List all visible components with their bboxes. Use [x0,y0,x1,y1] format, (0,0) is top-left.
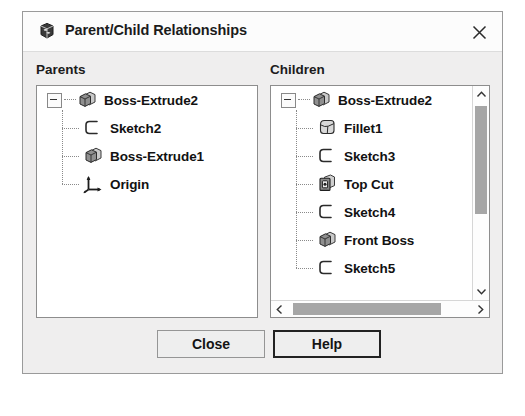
tree-root-item[interactable]: Boss-Extrude2 [37,86,257,114]
tree-item-label: Sketch2 [110,121,161,136]
tree-item[interactable]: Sketch3 [271,142,472,170]
tree-item[interactable]: Front Boss [271,226,472,254]
tree-item-label: Sketch5 [344,261,395,276]
parents-tree-viewport: Boss-Extrude2Sketch2Boss-Extrude1Origin [37,86,257,317]
sketch-icon [316,201,338,223]
tree-item-label: Sketch4 [344,205,395,220]
parents-tree-panel: Boss-Extrude2Sketch2Boss-Extrude1Origin [36,85,258,318]
children-panel-label: Children [270,62,325,77]
extrude-feature-icon [316,229,338,251]
tree-item[interactable]: Top Cut [271,170,472,198]
help-button[interactable]: Help [273,330,381,358]
chevron-right-icon[interactable] [472,301,489,317]
children-horizontal-scrollbar[interactable] [271,300,489,317]
tree-item[interactable]: Sketch5 [271,254,472,282]
children-tree-viewport: Boss-Extrude2Fillet1Sketch3Top CutSketch… [271,86,472,300]
tree-item[interactable]: Boss-Extrude1 [37,142,257,170]
tree-connector-line [64,99,76,101]
origin-axes-icon [82,173,104,195]
sketch-icon [316,257,338,279]
sketch-icon [316,145,338,167]
tree-item-label: Fillet1 [344,121,382,136]
extrude-feature-icon [82,145,104,167]
tree-item-label: Boss-Extrude2 [338,93,432,108]
parent-child-relationships-dialog: Parent/Child Relationships Parents Child… [22,11,503,374]
tree-connector-line [298,99,310,101]
tree-item-label: Sketch3 [344,149,395,164]
expander-minus-icon[interactable] [47,93,62,108]
chevron-left-icon[interactable] [271,301,288,317]
chevron-down-icon[interactable] [473,283,489,300]
tree-root-item[interactable]: Boss-Extrude2 [271,86,472,114]
children-vertical-scroll-thumb[interactable] [475,106,487,214]
dialog-title: Parent/Child Relationships [65,22,247,38]
tree-item-label: Boss-Extrude1 [110,149,204,164]
children-tree[interactable]: Boss-Extrude2Fillet1Sketch3Top CutSketch… [271,86,472,282]
parents-tree[interactable]: Boss-Extrude2Sketch2Boss-Extrude1Origin [37,86,257,198]
chevron-up-icon[interactable] [473,86,489,103]
expander-minus-icon[interactable] [281,93,296,108]
extrude-feature-icon [310,89,332,111]
tree-item[interactable]: Fillet1 [271,114,472,142]
solidworks-logo-icon [37,22,57,42]
tree-item-label: Origin [110,177,149,192]
tree-item-label: Front Boss [344,233,414,248]
tree-item[interactable]: Sketch2 [37,114,257,142]
parents-panel-label: Parents [36,62,86,77]
tree-item-label: Top Cut [344,177,393,192]
tree-item[interactable]: Sketch4 [271,198,472,226]
tree-item-label: Boss-Extrude2 [104,93,198,108]
close-button[interactable]: Close [157,330,265,358]
children-horizontal-scroll-thumb[interactable] [293,303,441,315]
tree-item[interactable]: Origin [37,170,257,198]
sketch-icon [82,117,104,139]
children-tree-panel: Boss-Extrude2Fillet1Sketch3Top CutSketch… [270,85,490,318]
close-icon[interactable] [464,18,494,46]
extrude-feature-icon [76,89,98,111]
children-vertical-scrollbar[interactable] [472,86,489,300]
fillet-icon [316,117,338,139]
dialog-titlebar: Parent/Child Relationships [23,12,502,52]
cut-extrude-icon [316,173,338,195]
